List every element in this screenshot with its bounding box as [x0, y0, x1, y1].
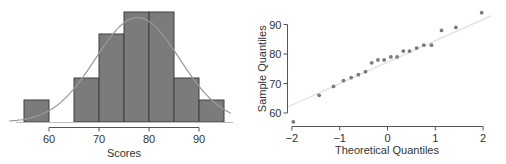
y-axis: 60708090	[269, 19, 287, 120]
y-tick-label: 70	[269, 78, 281, 90]
data-point	[454, 26, 458, 30]
data-point	[317, 93, 321, 97]
reference-line	[288, 16, 491, 107]
data-point	[415, 46, 419, 50]
data-point	[389, 55, 393, 59]
x-tick-label: −2	[286, 132, 299, 144]
data-point	[422, 43, 426, 47]
data-point	[480, 11, 484, 15]
x-tick-label: −1	[333, 132, 346, 144]
x-tick-label: 0	[384, 132, 390, 144]
data-point	[382, 58, 386, 62]
qq-points	[291, 11, 483, 124]
data-point	[395, 55, 399, 59]
data-point	[332, 85, 336, 89]
data-point	[401, 49, 405, 53]
data-point	[430, 43, 434, 47]
y-tick-label: 80	[269, 48, 281, 60]
y-axis-title: Sample Quantiles	[256, 25, 268, 112]
data-point	[408, 49, 412, 53]
x-tick-label: 1	[432, 132, 438, 144]
x-axis-title: Theoretical Quantiles	[335, 144, 439, 156]
data-point	[376, 58, 380, 62]
data-point	[349, 76, 353, 80]
x-axis: −2−1012	[286, 127, 487, 144]
y-tick-label: 60	[269, 107, 281, 119]
data-point	[356, 73, 360, 77]
data-point	[364, 70, 368, 74]
data-point	[440, 29, 444, 33]
y-tick-label: 90	[269, 19, 281, 31]
figure: 60708090 Scores 60708090 −2−1012 Sample …	[0, 0, 506, 164]
data-point	[291, 120, 295, 124]
x-tick-label: 2	[480, 132, 486, 144]
qq-plot-chart: 60708090 −2−1012 Sample Quantiles Theore…	[0, 0, 506, 164]
data-point	[370, 61, 374, 65]
data-point	[342, 79, 346, 83]
